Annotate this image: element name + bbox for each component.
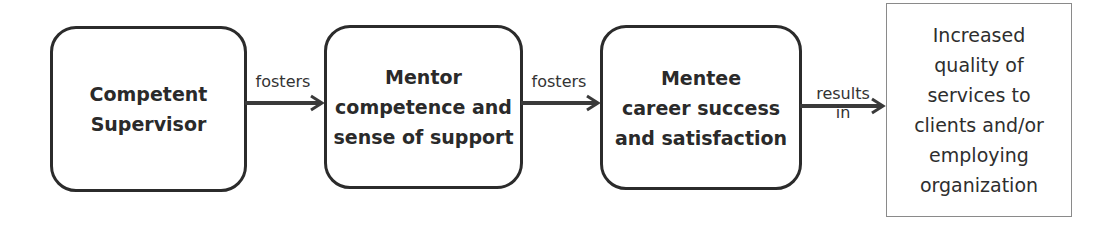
node-label: Competent Supervisor <box>90 79 208 139</box>
arrow-icon <box>521 93 603 113</box>
node-label: Mentor competence and sense of support <box>333 62 513 152</box>
node-mentor-competence: Mentor competence and sense of support <box>324 25 523 189</box>
node-mentee-career-success: Mentee career success and satisfaction <box>600 25 802 190</box>
node-competent-supervisor: Competent Supervisor <box>50 26 247 192</box>
node-label: Mentee career success and satisfaction <box>615 63 787 153</box>
arrow-icon <box>245 93 327 113</box>
node-label: Increased quality of services to clients… <box>914 20 1044 200</box>
edge-label-fosters: fosters <box>248 72 318 91</box>
node-increased-quality-of-services: Increased quality of services to clients… <box>886 3 1072 217</box>
edge-label-results-in: results in <box>808 84 878 122</box>
edge-label-fosters: fosters <box>524 72 594 91</box>
